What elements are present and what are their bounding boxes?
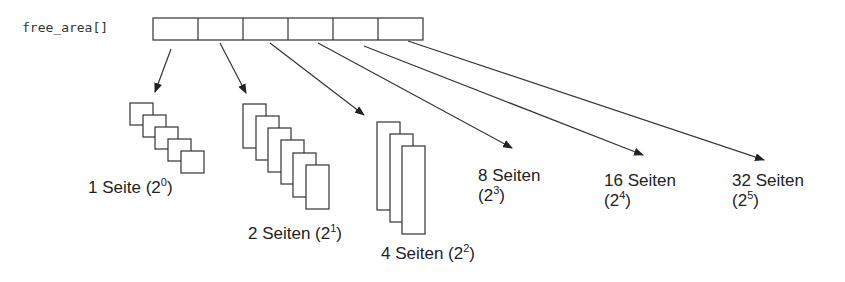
arrow-2 bbox=[220, 43, 246, 93]
label-32-seiten: 32 Seiten(25) bbox=[732, 171, 804, 211]
block-4-pages bbox=[377, 122, 425, 234]
label-2-seiten: 2 Seiten (21) bbox=[248, 224, 342, 244]
arrow-3 bbox=[270, 43, 364, 115]
arrow-1 bbox=[155, 49, 171, 92]
buddy-diagram bbox=[0, 0, 845, 282]
free-area-array bbox=[153, 18, 423, 40]
arrow-4 bbox=[318, 43, 512, 148]
arrow-6 bbox=[408, 41, 764, 160]
block-1-pages bbox=[130, 103, 204, 173]
label-16-seiten: 16 Seiten(24) bbox=[604, 171, 676, 211]
block-2-pages bbox=[243, 104, 329, 209]
label-1-seite: 1 Seite (20) bbox=[88, 178, 173, 198]
label-4-seiten: 4 Seiten (22) bbox=[381, 244, 475, 264]
label-8-seiten: 8 Seiten(23) bbox=[478, 166, 540, 206]
